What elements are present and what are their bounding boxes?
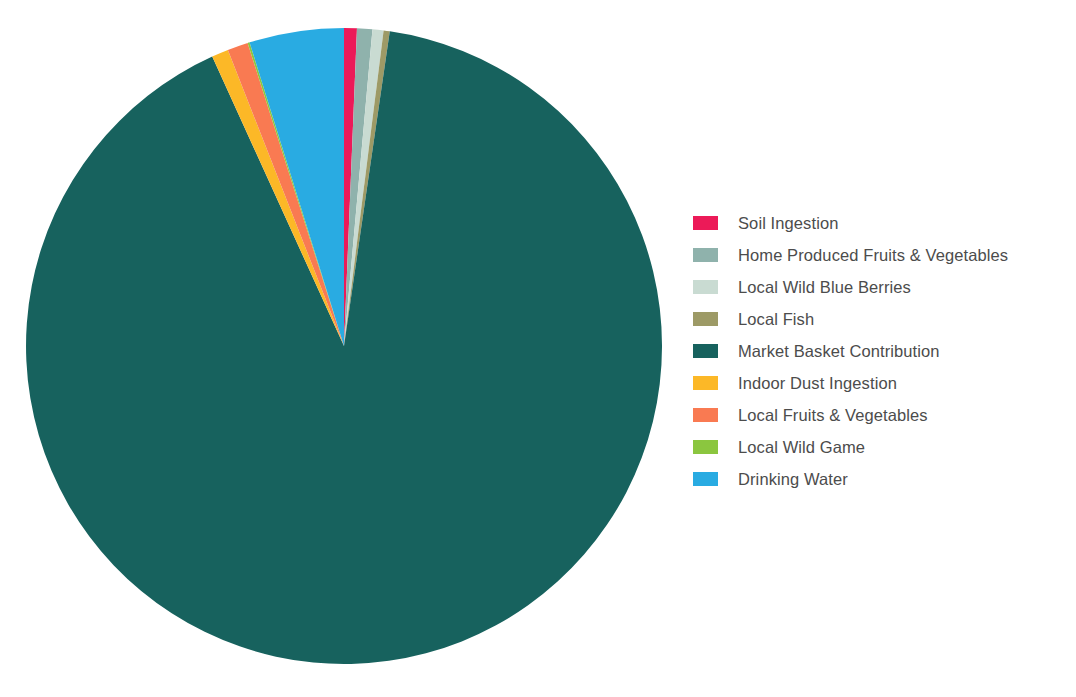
- legend-item-label: Local Wild Blue Berries: [738, 279, 911, 296]
- legend-item-label: Local Fruits & Vegetables: [738, 407, 928, 424]
- legend-item[interactable]: Home Produced Fruits & Vegetables: [693, 239, 1063, 271]
- pie-chart-figure: Soil IngestionHome Produced Fruits & Veg…: [0, 0, 1076, 697]
- legend-item-label: Drinking Water: [738, 471, 848, 488]
- legend-item[interactable]: Local Wild Game: [693, 431, 1063, 463]
- legend-swatch-icon: [693, 344, 718, 358]
- legend-item-label: Home Produced Fruits & Vegetables: [738, 247, 1008, 264]
- legend-item[interactable]: Local Fish: [693, 303, 1063, 335]
- legend-swatch-icon: [693, 440, 718, 454]
- legend-swatch-icon: [693, 472, 718, 486]
- legend-item-label: Soil Ingestion: [738, 215, 838, 232]
- pie-svg: [0, 0, 700, 697]
- legend-item-label: Local Wild Game: [738, 439, 865, 456]
- chart-legend: Soil IngestionHome Produced Fruits & Veg…: [693, 207, 1063, 495]
- legend-swatch-icon: [693, 216, 718, 230]
- legend-item[interactable]: Local Fruits & Vegetables: [693, 399, 1063, 431]
- legend-item[interactable]: Local Wild Blue Berries: [693, 271, 1063, 303]
- legend-swatch-icon: [693, 312, 718, 326]
- legend-swatch-icon: [693, 280, 718, 294]
- legend-item-label: Market Basket Contribution: [738, 343, 940, 360]
- legend-swatch-icon: [693, 376, 718, 390]
- pie-plot-area: [0, 0, 700, 697]
- pie-slice-group: [26, 28, 662, 664]
- legend-item[interactable]: Indoor Dust Ingestion: [693, 367, 1063, 399]
- legend-item-label: Indoor Dust Ingestion: [738, 375, 897, 392]
- legend-item[interactable]: Soil Ingestion: [693, 207, 1063, 239]
- legend-swatch-icon: [693, 408, 718, 422]
- legend-item-label: Local Fish: [738, 311, 814, 328]
- legend-swatch-icon: [693, 248, 718, 262]
- legend-item[interactable]: Market Basket Contribution: [693, 335, 1063, 367]
- legend-item[interactable]: Drinking Water: [693, 463, 1063, 495]
